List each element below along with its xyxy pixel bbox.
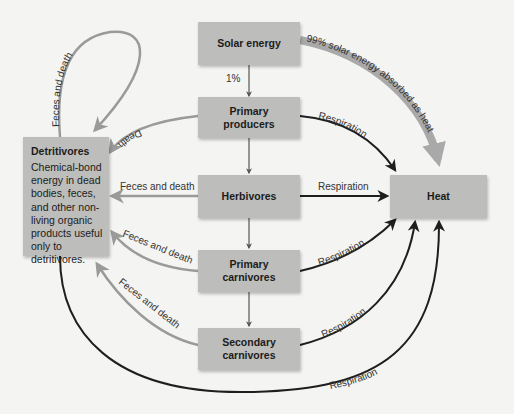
- label-producers-to-detritivores: Death: [116, 128, 144, 151]
- node-primary-carnivores: Primary carnivores: [198, 250, 300, 292]
- node-heat-label: Heat: [427, 190, 450, 203]
- label-herbivores-to-heat: Respiration: [318, 181, 369, 192]
- node-solar-energy-label: Solar energy: [217, 37, 281, 50]
- node-primary-producers: Primary producers: [198, 97, 300, 138]
- label-detritivores-loop: Feces and death: [50, 50, 75, 127]
- node-primary-producers-label: Primary producers: [223, 105, 274, 131]
- node-solar-energy: Solar energy: [198, 22, 300, 65]
- node-herbivores: Herbivores: [198, 175, 300, 218]
- label-secondary-carnivores-to-heat: Respiration: [320, 305, 368, 339]
- node-secondary-carnivores-label: Secondary carnivores: [222, 336, 276, 362]
- label-detritivores-to-heat: Respiration: [329, 366, 379, 391]
- label-solar-to-producers: 1%: [226, 73, 241, 84]
- label-primary-carnivores-to-heat: Respiration: [317, 237, 367, 268]
- node-heat: Heat: [390, 175, 487, 218]
- node-detritivores-title: Detritivores: [31, 145, 89, 158]
- node-secondary-carnivores: Secondary carnivores: [198, 328, 300, 370]
- label-producers-to-heat: Respiration: [317, 110, 369, 140]
- label-primary-carnivores-to-detritivores: Feces and death: [121, 228, 194, 266]
- node-herbivores-label: Herbivores: [222, 190, 277, 203]
- node-detritivores-description: Chemical-bond energy in dead bodies, fec…: [31, 161, 102, 267]
- label-herbivores-to-detritivores: Feces and death: [120, 181, 195, 192]
- node-primary-carnivores-label: Primary carnivores: [222, 258, 275, 284]
- node-detritivores: Detritivores Chemical-bond energy in dea…: [23, 137, 109, 256]
